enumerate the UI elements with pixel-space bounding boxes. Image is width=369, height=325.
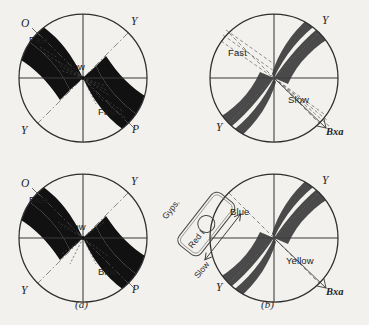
br-axis-label-y-bottom: Y: [216, 281, 222, 293]
tl-axis-label-p: P: [132, 123, 139, 135]
tr-axis-label-bxa: Bxa: [326, 126, 344, 137]
bl-axis-label-o: O: [21, 177, 29, 189]
gypsum-plate-slow-direction-label: Slow: [192, 259, 211, 280]
bl-zone-label-blue-upper: Blue: [29, 194, 48, 205]
slow-arrow-graphic: [202, 212, 243, 262]
br-zone-label-blue: Blue: [230, 206, 249, 217]
bl-axis-label-y-bottom: Y: [21, 284, 27, 296]
br-axis-label-bxa: Bxa: [326, 286, 344, 297]
gypsum-plate-graphic: [175, 189, 238, 258]
melatope-tl: [81, 76, 85, 80]
tl-zone-label-slow-center: Slow: [64, 61, 85, 72]
gypsum-plate-retardation-label: Red I: [186, 228, 206, 250]
tr-axis-label-y-top: Y: [322, 14, 328, 26]
tl-axis-label-o: O: [21, 17, 29, 29]
crosshair-tr: [210, 14, 338, 142]
tl-axis-label-y-bottom: Y: [21, 124, 27, 136]
tl-axis-label-y-top: Y: [131, 15, 137, 27]
crosshair-br: [210, 174, 338, 302]
tr-axis-label-y-bottom: Y: [216, 121, 222, 133]
tr-zone-label-slow: Slow: [288, 94, 309, 105]
interference-figure-plate: O Y Y P Fast Slow Fast Y Y Bxa Fast Slow…: [0, 0, 369, 325]
gypsum-plate-name-label: Gyps.: [160, 197, 182, 221]
tl-zone-label-fast-upper: Fast: [29, 34, 48, 45]
br-axis-label-y-top: Y: [322, 174, 328, 186]
circle-outline-br: [210, 174, 338, 302]
br-zone-label-yellow: Yellow: [286, 255, 314, 266]
stereogram-top-left: [0, 0, 369, 325]
isogyre-band-group-tr: [210, 17, 338, 139]
bl-zone-label-yellow-center: Yellow: [58, 221, 86, 232]
circle-outline-tr: [210, 14, 338, 142]
bl-axis-label-p: P: [132, 283, 139, 295]
bl-axis-label-y-top: Y: [131, 175, 137, 187]
bl-zone-label-blue-lower: Blue: [98, 266, 117, 277]
caption-b: (b): [261, 298, 274, 310]
tl-zone-label-fast-lower: Fast: [98, 106, 117, 117]
caption-a: (a): [75, 298, 88, 310]
tr-zone-label-fast: Fast: [228, 47, 247, 58]
isogyre-band-group-br: [210, 177, 338, 299]
melatope-bl: [81, 236, 85, 240]
